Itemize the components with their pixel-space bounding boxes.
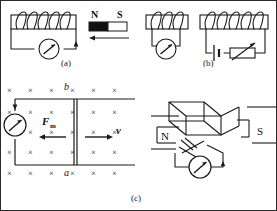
pole-south-label-d: S [257, 125, 263, 137]
field-mark: × [91, 107, 96, 117]
panel-d: N S [149, 85, 277, 205]
current-arrow-c [13, 105, 18, 110]
rheostat-b [230, 43, 255, 60]
field-mark: × [112, 147, 117, 157]
slip-rings-d [179, 138, 204, 157]
field-mark: × [7, 168, 12, 178]
field-mark: × [7, 147, 12, 157]
field-mark: × [91, 127, 96, 137]
magnet-south-label-a: S [117, 9, 123, 20]
field-mark: × [112, 85, 117, 95]
rod-label-a-c: a [64, 167, 69, 178]
caption-c: (c) [131, 193, 141, 203]
magnet-north-label-a: N [91, 9, 99, 20]
solenoid-body-b-right [200, 15, 268, 29]
physics-figure-electromagnetic-induction: N S (a) [0, 0, 277, 211]
field-mark: × [70, 168, 75, 178]
rod-label-b-c: b [64, 81, 69, 92]
galvanometer-a [39, 39, 59, 59]
current-arrow-a [74, 41, 79, 46]
field-mark: × [28, 147, 33, 157]
field-mark: × [91, 85, 96, 95]
solenoid-body-a [11, 15, 76, 29]
field-mark: × [112, 107, 117, 117]
field-mark: × [91, 147, 96, 157]
battery-b [214, 45, 219, 61]
galvanometer-c [4, 114, 26, 136]
field-mark: × [49, 147, 54, 157]
pole-north-label-d: N [161, 130, 169, 142]
field-mark: × [49, 107, 54, 117]
caption-b: (b) [203, 58, 214, 68]
current-arrow-d [221, 161, 226, 166]
velocity-label-c: v [116, 124, 121, 136]
caption-a: (a) [61, 58, 71, 68]
panel-a-drawing: N S [1, 1, 141, 73]
field-mark: × [91, 168, 96, 178]
magnet-motion-arrow-a [89, 35, 129, 40]
field-mark: × [49, 168, 54, 178]
panel-c: × × × × × × × × × × × × × × × × × × × × [1, 77, 149, 189]
field-mark: × [28, 107, 33, 117]
rotating-coil-d [169, 102, 239, 135]
field-mark: × [49, 85, 54, 95]
bar-magnet-a [89, 22, 127, 31]
force-label-c: F [41, 115, 50, 127]
field-mark: × [28, 85, 33, 95]
field-mark: × [28, 127, 33, 137]
field-mark: × [70, 85, 75, 95]
panel-c-drawing: × × × × × × × × × × × × × × × × × × × × [1, 77, 149, 189]
field-mark: × [112, 168, 117, 178]
velocity-arrow-c [85, 134, 113, 140]
panel-a: N S [1, 1, 141, 73]
field-mark: × [28, 168, 33, 178]
field-mark: × [7, 85, 12, 95]
panel-d-drawing: N S [149, 85, 277, 205]
galvanometer-d [189, 156, 211, 178]
galvanometer-b [156, 39, 176, 59]
force-subscript-c: m [50, 122, 56, 130]
sliding-rod-ab-c [74, 99, 77, 165]
